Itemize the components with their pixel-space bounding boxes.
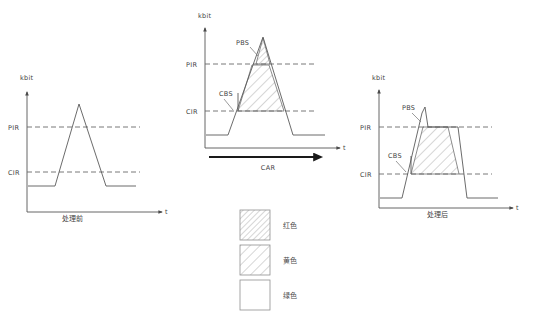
chart-after-cbs-leader — [396, 161, 406, 172]
car-policing-diagram: kbit t PIR CIR 处理前 kbit t PIR CIR PBS — [0, 0, 533, 326]
chart-after-cbs-label: CBS — [388, 152, 402, 160]
chart-before-y-axis-label: kbit — [20, 74, 34, 82]
chart-after-cir-label: CIR — [360, 171, 372, 179]
car-arrow-label: CAR — [261, 164, 276, 172]
chart-middle-x-axis-label: t — [343, 144, 346, 152]
chart-middle-cbs-leader — [224, 99, 233, 110]
chart-middle-cbs-label: CBS — [219, 90, 233, 98]
chart-before-traffic-curve — [28, 104, 136, 186]
chart-before-pir-label: PIR — [8, 124, 19, 132]
legend-label-red: 红色 — [283, 221, 297, 230]
legend-swatch-green — [240, 280, 270, 310]
chart-middle-y-axis-label: kbit — [198, 12, 212, 20]
chart-middle-cir-label: CIR — [186, 108, 198, 116]
legend-swatch-red — [240, 210, 270, 240]
chart-middle-pbs-label: PBS — [236, 39, 249, 47]
chart-middle-pbs-leader — [250, 47, 258, 56]
chart-before-x-axis-label: t — [165, 208, 168, 216]
legend-swatch-yellow — [240, 245, 270, 275]
legend-item-red: 红色 — [240, 210, 297, 240]
chart-before-caption: 处理前 — [62, 214, 83, 223]
legend-item-green: 绿色 — [240, 280, 297, 310]
legend-item-yellow: 黄色 — [240, 245, 297, 275]
chart-after-pir-label: PIR — [360, 124, 371, 132]
chart-after: kbit t PIR CIR PBS CBS 处理后 — [360, 74, 519, 219]
chart-after-x-axis-label: t — [516, 204, 519, 212]
chart-after-y-axis-label: kbit — [372, 74, 386, 82]
legend: 红色 黄色 绿色 — [240, 210, 297, 310]
chart-middle-pir-label: PIR — [186, 61, 197, 69]
chart-after-pbs-leader — [412, 113, 421, 122]
chart-after-pbs-label: PBS — [402, 104, 415, 112]
legend-label-green: 绿色 — [283, 291, 297, 300]
chart-after-caption: 处理后 — [427, 210, 448, 219]
chart-middle: kbit t PIR CIR PBS CBS CAR — [186, 12, 346, 172]
chart-after-yellow-zone — [411, 127, 459, 174]
legend-label-yellow: 黄色 — [283, 256, 297, 265]
chart-before-cir-label: CIR — [8, 169, 20, 177]
chart-before: kbit t PIR CIR 处理前 — [8, 74, 168, 223]
